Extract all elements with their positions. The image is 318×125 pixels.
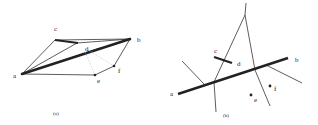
label-f: f: [274, 85, 277, 93]
point-e: [94, 74, 97, 77]
ray-bottom-right: [255, 70, 270, 106]
label-c: c: [54, 25, 57, 33]
segment-a-b: [22, 39, 130, 74]
label-e: e: [254, 96, 257, 104]
label-a: a: [13, 72, 17, 80]
ray-right: [266, 65, 302, 83]
edge-a-e: [22, 74, 95, 75]
point-e: [250, 94, 253, 97]
point-f: [113, 65, 116, 68]
panel-a: a c d b e f (a): [13, 25, 141, 116]
point-f: [269, 85, 272, 88]
label-c: c: [214, 47, 217, 55]
ray-left: [182, 61, 204, 84]
panel-b: a c d b e f (b): [170, 3, 302, 118]
caption-a: (a): [53, 111, 59, 116]
label-d: d: [237, 60, 241, 68]
point-a: [21, 73, 24, 76]
dotted-d-e: [85, 52, 95, 75]
segment-c-d: [55, 40, 78, 43]
segment-a-b: [178, 58, 288, 94]
edge-e-f: [95, 66, 114, 75]
edge-vertex-right: [245, 15, 255, 70]
diagram-canvas: a c d b e f (a) a c d b e f (b): [0, 0, 318, 125]
label-d: d: [85, 45, 89, 53]
ray-bottom-left: [214, 82, 216, 112]
label-f: f: [118, 67, 121, 75]
label-e: e: [97, 77, 100, 85]
caption-b: (b): [223, 113, 229, 118]
label-b: b: [295, 56, 299, 64]
ray-top: [245, 3, 246, 15]
edge-vertex-left: [214, 15, 245, 82]
label-b: b: [137, 36, 141, 44]
label-a: a: [170, 90, 174, 98]
point-b: [129, 38, 132, 41]
